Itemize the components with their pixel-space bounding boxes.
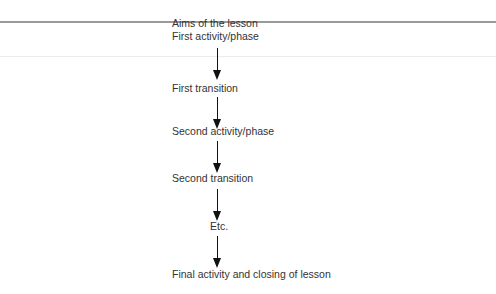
cropped-text-fragment xyxy=(0,0,496,3)
step-etc: Etc. xyxy=(210,220,228,232)
step-second-activity: Second activity/phase xyxy=(172,125,274,137)
faint-horizontal-rule xyxy=(0,56,496,57)
step-first-transition: First transition xyxy=(172,82,238,94)
step-final-activity: Final activity and closing of lesson xyxy=(172,268,331,280)
step-first-activity: First activity/phase xyxy=(172,30,259,42)
arrow-down-icon xyxy=(212,141,224,173)
step-second-transition: Second transition xyxy=(172,172,253,184)
arrow-down-icon xyxy=(212,236,224,268)
arrow-down-icon xyxy=(212,48,224,80)
arrow-down-icon xyxy=(212,189,224,221)
aims-label: Aims of the lesson xyxy=(172,17,258,29)
